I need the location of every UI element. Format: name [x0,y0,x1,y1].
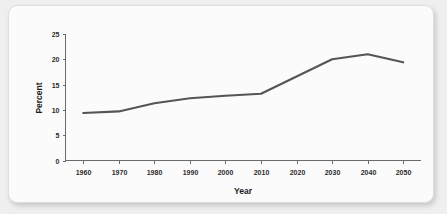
y-tick-label: 0 [56,158,60,165]
x-axis-tick-labels: 1960197019801990200020102020203020402050 [76,169,412,176]
x-axis-title: Year [234,186,253,196]
x-tick-label: 1970 [112,169,128,176]
x-tick-label: 2040 [361,169,377,176]
chart-card: 0510152025 19601970198019902000201020202… [8,5,434,203]
y-tick-label: 10 [52,107,60,114]
x-tick-label: 2050 [396,169,412,176]
y-tick-label: 25 [52,31,60,38]
y-tick-label: 20 [52,56,60,63]
x-tick-label: 1980 [147,169,163,176]
x-tick-label: 2030 [325,169,341,176]
chart-canvas: 0510152025 19601970198019902000201020202… [9,6,433,202]
y-tick-label: 15 [52,82,60,89]
x-tick-label: 1960 [76,169,92,176]
y-tick-label: 5 [56,132,60,139]
line-chart: 0510152025 19601970198019902000201020202… [9,6,433,202]
y-axis-title: Percent [34,82,44,113]
x-tick-label: 2000 [218,169,234,176]
x-tick-label: 2020 [290,169,306,176]
y-axis-tick-labels: 0510152025 [52,31,60,165]
x-tick-label: 1990 [183,169,199,176]
x-tick-label: 2010 [254,169,270,176]
data-series-line [83,54,403,113]
x-axis-ticks [84,161,404,165]
